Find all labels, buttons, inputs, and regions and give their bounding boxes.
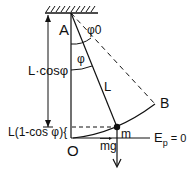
pendulum-diagram: A φ0 φ L B L·cosφ L(1-cos φ){ O m mg Ep …: [0, 0, 194, 174]
pendulum-bob: [114, 124, 120, 130]
label-mg: mg: [100, 140, 117, 152]
label-a: A: [59, 22, 69, 37]
label-phi0: φ0: [87, 24, 101, 36]
label-o: O: [67, 143, 79, 158]
label-height-gain: L(1-cos φ){: [8, 126, 67, 138]
label-phi: φ: [77, 53, 85, 65]
label-ep: Ep = 0: [154, 131, 186, 148]
ep-main: E: [154, 130, 163, 145]
ceiling-hatch: [45, 6, 98, 13]
label-l: L: [104, 80, 111, 93]
angle-phi-arc: [71, 66, 92, 70]
label-b: B: [160, 96, 169, 110]
label-m: m: [121, 128, 131, 140]
label-lcos: L·cosφ: [28, 64, 68, 77]
ep-rest: = 0: [168, 132, 187, 144]
arrow-up-icon: [45, 15, 51, 22]
